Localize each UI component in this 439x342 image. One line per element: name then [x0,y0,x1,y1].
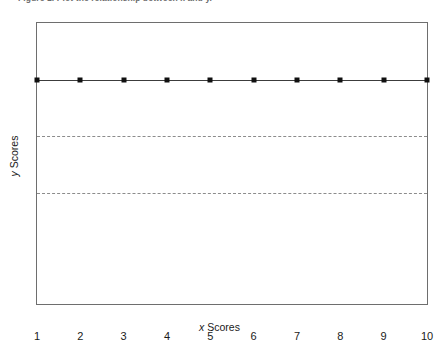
gridline-y2 [37,136,427,137]
data-point-marker[interactable] [208,77,213,82]
data-point-marker[interactable] [78,77,83,82]
y-axis-label: y Scores [8,106,20,206]
data-point-marker[interactable] [121,77,126,82]
data-point-marker[interactable] [294,77,299,82]
x-axis-label: x Scores [0,321,439,333]
data-point-marker[interactable] [251,77,256,82]
data-point-marker[interactable] [381,77,386,82]
data-point-marker[interactable] [164,77,169,82]
data-point-marker[interactable] [338,77,343,82]
data-series-line [37,80,427,81]
plot-area: 5 4 3 2 1 0 1 2 3 4 5 6 7 8 9 10 [36,22,428,305]
x-axis-label-text: Scores [204,321,240,333]
data-point-marker[interactable] [425,77,430,82]
gridline-y1 [37,193,427,194]
y-axis-label-text: Scores [8,136,20,172]
y-axis-variable: y [8,171,20,176]
data-point-marker[interactable] [35,77,40,82]
